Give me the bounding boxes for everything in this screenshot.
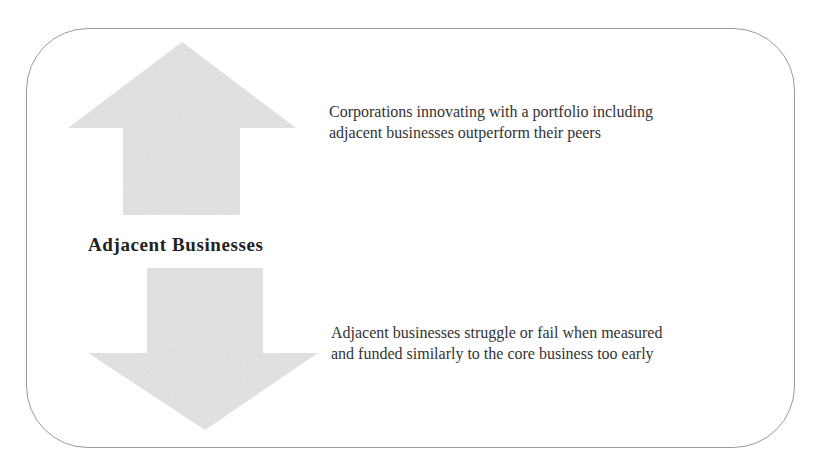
downside-line-2: and funded similarly to the core busines… — [331, 343, 662, 364]
downside-line-1: Adjacent businesses struggle or fail whe… — [331, 322, 662, 343]
upside-note: Corporations innovating with a portfolio… — [329, 101, 653, 143]
upside-line-1: Corporations innovating with a portfolio… — [329, 101, 653, 122]
upside-line-2: adjacent businesses outperform their pee… — [329, 122, 653, 143]
diagram-label: Adjacent Businesses — [88, 234, 264, 256]
arrow-down-icon — [88, 268, 318, 430]
downside-note: Adjacent businesses struggle or fail whe… — [331, 322, 662, 364]
arrow-up-icon — [68, 42, 296, 215]
